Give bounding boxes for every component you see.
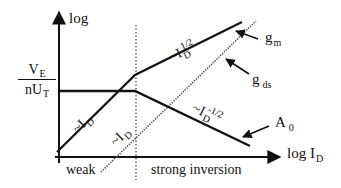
gm-label: gm [265, 30, 281, 45]
y-axis-label: log [69, 11, 88, 26]
y-tick-ve-over-nut: VE nUT [18, 62, 56, 98]
region-label-weak: weak [66, 163, 96, 177]
a0-label: A0 [275, 115, 294, 130]
fraction-denominator: nUT [18, 82, 56, 98]
gds-label: gds [252, 72, 271, 87]
gm-curve [57, 22, 242, 152]
region-label-strong-inversion: strong inversion [151, 163, 242, 177]
a0-pointer-arrow [243, 126, 269, 137]
fraction-numerator: VE [18, 62, 56, 78]
gds-pointer-arrow [226, 59, 249, 74]
fraction-bar [18, 79, 56, 80]
x-axis-label: log ID [287, 146, 323, 161]
